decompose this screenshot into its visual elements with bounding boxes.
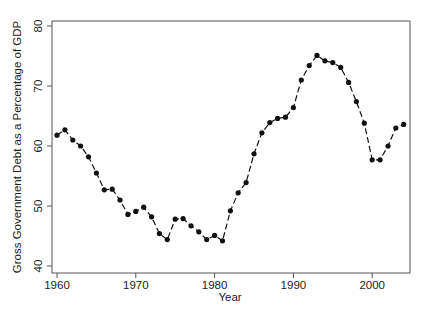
data-point: [401, 122, 406, 127]
y-tick-label: 60: [32, 140, 44, 153]
y-tick-label: 50: [32, 200, 44, 213]
data-point: [204, 237, 209, 242]
data-point: [393, 125, 398, 130]
data-point: [110, 187, 115, 192]
x-tick-label: 1960: [44, 279, 70, 291]
data-point: [94, 170, 99, 175]
data-point: [314, 53, 319, 58]
data-point: [149, 214, 154, 219]
data-point: [291, 105, 296, 110]
data-point: [133, 209, 138, 214]
data-point: [86, 154, 91, 159]
data-point: [378, 157, 383, 162]
data-point: [251, 151, 256, 156]
data-point: [78, 143, 83, 148]
data-point: [141, 205, 146, 210]
data-point: [338, 65, 343, 70]
data-point: [259, 130, 264, 135]
data-point: [54, 133, 59, 138]
y-axis: 4050607080: [32, 20, 52, 273]
y-tick-label: 80: [32, 20, 44, 33]
data-point: [212, 233, 217, 238]
series-markers: [54, 53, 406, 244]
x-tick-label: 1970: [123, 279, 149, 291]
data-point: [181, 216, 186, 221]
data-point: [157, 231, 162, 236]
data-point: [370, 157, 375, 162]
x-tick-label: 2000: [359, 279, 385, 291]
data-point: [236, 190, 241, 195]
data-point: [362, 121, 367, 126]
x-axis-title: Year: [218, 291, 241, 303]
data-point: [228, 208, 233, 213]
x-axis: 19601970198019902000: [44, 273, 385, 291]
data-point: [62, 127, 67, 132]
y-tick-label: 40: [32, 260, 44, 273]
data-point: [188, 223, 193, 228]
data-point: [330, 60, 335, 65]
data-point: [322, 58, 327, 63]
data-point: [307, 63, 312, 68]
data-point: [267, 120, 272, 125]
data-point: [275, 116, 280, 121]
data-point: [102, 187, 107, 192]
data-point: [117, 197, 122, 202]
x-tick-label: 1990: [281, 279, 307, 291]
data-point: [385, 143, 390, 148]
line-chart: 4050607080 19601970198019902000 Year Gro…: [0, 0, 425, 318]
data-point: [299, 77, 304, 82]
data-point: [125, 212, 130, 217]
plot-frame: [52, 21, 410, 273]
data-point: [283, 115, 288, 120]
data-point: [354, 99, 359, 104]
data-point: [70, 137, 75, 142]
data-point: [173, 217, 178, 222]
data-point: [196, 229, 201, 234]
data-point: [220, 238, 225, 243]
data-point: [346, 80, 351, 85]
x-tick-label: 1980: [202, 279, 228, 291]
chart-canvas: 4050607080 19601970198019902000 Year Gro…: [0, 0, 425, 318]
y-tick-label: 70: [32, 80, 44, 93]
y-axis-title: Gross Government Debt as a Percentage of…: [11, 20, 23, 273]
data-point: [165, 237, 170, 242]
data-point: [244, 180, 249, 185]
